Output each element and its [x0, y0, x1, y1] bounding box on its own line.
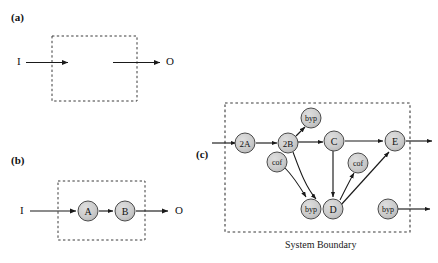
edge-2b-to-byp-top — [296, 127, 305, 136]
panel-a-group — [26, 36, 160, 101]
node-cof-left-label: cof — [272, 158, 283, 167]
node-cof-right-label: cof — [353, 159, 364, 168]
node-byp-top-label: byp — [305, 114, 317, 123]
node-b-label: B — [122, 206, 129, 217]
panel-a-label: (a) — [11, 12, 24, 23]
node-c-label: C — [331, 136, 338, 147]
node-e-label: E — [392, 136, 398, 147]
panel-b-input-label: I — [20, 205, 24, 216]
node-2b-label: 2B — [283, 139, 294, 149]
node-2a-label: 2A — [240, 139, 252, 149]
panel-a-output-label: O — [166, 56, 174, 67]
edge-2b-to-d — [293, 152, 316, 199]
panel-a-input-label: I — [17, 56, 21, 67]
node-byp-right-label: byp — [382, 205, 394, 214]
edge-cof-left-to-byp-bottom — [285, 168, 306, 197]
panel-c-label: (c) — [196, 149, 208, 160]
node-d-label: D — [329, 204, 336, 215]
panel-b-label: (b) — [11, 155, 24, 166]
panel-c-group: 2A 2B C E byp cof cof byp D byp — [212, 103, 432, 232]
node-a-label: A — [84, 206, 92, 217]
edge-d-to-cof-right — [340, 173, 354, 200]
node-byp-bottom-label: byp — [305, 205, 317, 214]
panel-a-boundary-box — [52, 36, 137, 101]
panel-b-group: A B — [30, 181, 168, 240]
figure-canvas: A B — [0, 0, 438, 263]
panel-b-output-label: O — [175, 205, 183, 216]
figure-vector-layer: A B — [0, 0, 438, 263]
system-boundary-caption: System Boundary — [285, 240, 356, 250]
